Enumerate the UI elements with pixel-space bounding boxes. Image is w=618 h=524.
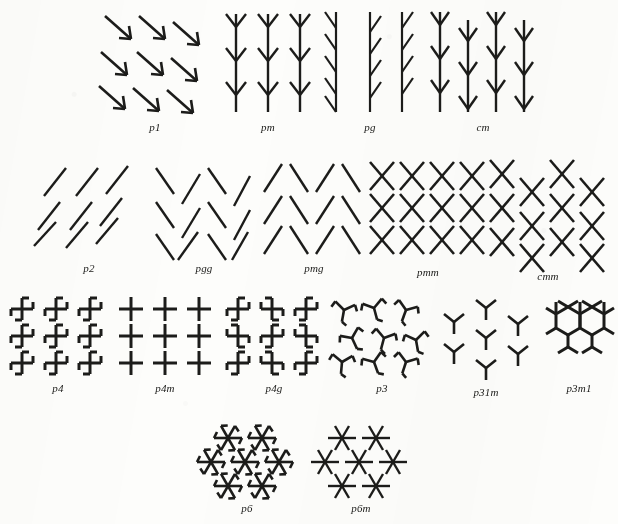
panel-cmm: cmm — [488, 160, 608, 282]
panel-label-p2: p2 — [30, 262, 148, 274]
panel-label-p3m1: p3m1 — [540, 382, 618, 394]
motif-art-pgg — [148, 160, 260, 262]
panel-p1: p1 — [95, 8, 215, 133]
panel-p6: p6 — [196, 424, 298, 514]
panel-label-p4: p4 — [6, 382, 110, 394]
motif-art-p4m — [113, 296, 217, 374]
motif-art-cmm — [488, 160, 608, 260]
motif-art-pm — [222, 8, 314, 120]
motif-art-p3 — [330, 296, 434, 376]
motif-art-cm — [428, 8, 538, 120]
figure-row-4: p6 — [0, 424, 618, 514]
panel-label-cm: cm — [428, 121, 538, 133]
figure-row-1: p1 — [0, 8, 618, 138]
figure-caption — [0, 513, 618, 524]
panel-pm: pm — [222, 8, 314, 133]
wallpaper-groups-figure: p1 — [0, 0, 618, 524]
panel-pg: pg — [322, 8, 418, 133]
motif-art-p6m — [310, 424, 412, 492]
motif-art-pmg — [258, 160, 370, 256]
panel-label-cmm: cmm — [488, 270, 608, 282]
panel-label-pmg: pmg — [258, 262, 370, 274]
panel-pgg: pgg — [148, 160, 260, 274]
panel-label-p4g: p4g — [222, 382, 326, 394]
panel-label-p4m: p4m — [113, 382, 217, 394]
panel-p31m: p31m — [436, 296, 536, 398]
panel-label-pmm: pmm — [368, 266, 488, 278]
panel-p4: p4 — [6, 296, 110, 394]
panel-p6m: p6m — [310, 424, 412, 514]
panel-p3: p3 — [330, 296, 434, 394]
panel-p3m1: p3m1 — [540, 296, 618, 394]
panel-label-p3: p3 — [330, 382, 434, 394]
motif-art-pmm — [368, 160, 488, 256]
motif-art-p1 — [95, 8, 215, 120]
panel-label-pgg: pgg — [148, 262, 260, 274]
figure-row-2: p2 pgg — [0, 160, 618, 280]
figure-row-3: p4 p4m — [0, 296, 618, 402]
panel-p4g: p4g — [222, 296, 326, 394]
motif-art-p6 — [196, 424, 298, 492]
motif-art-p3m1 — [540, 296, 618, 376]
panel-pmg: pmg — [258, 160, 370, 274]
panel-label-pg: pg — [322, 121, 418, 133]
panel-p2: p2 — [30, 160, 148, 274]
panel-p4m: p4m — [113, 296, 217, 394]
panel-label-p1: p1 — [95, 121, 215, 133]
motif-art-p2 — [30, 160, 148, 250]
motif-art-p4g — [222, 296, 326, 374]
panel-label-p31m: p31m — [436, 386, 536, 398]
panel-label-pm: pm — [222, 121, 314, 133]
motif-art-pg — [322, 8, 418, 120]
motif-art-p4 — [6, 296, 110, 374]
panel-cm: cm — [428, 8, 538, 133]
panel-pmm: pmm — [368, 160, 488, 278]
motif-art-p31m — [436, 296, 536, 382]
